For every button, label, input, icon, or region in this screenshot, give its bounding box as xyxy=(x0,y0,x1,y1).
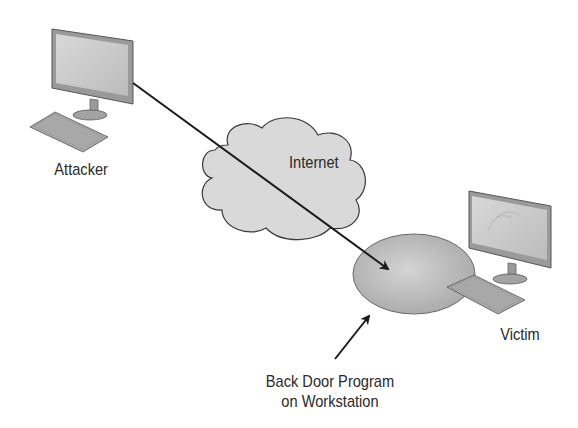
attacker-computer-icon xyxy=(30,29,133,152)
backdoor-label-line1: Back Door Program xyxy=(253,372,408,392)
diagram-canvas xyxy=(0,0,578,428)
attacker-label: Attacker xyxy=(54,160,108,180)
internet-label: Internet xyxy=(289,153,339,173)
backdoor-program-ellipse xyxy=(353,234,475,314)
backdoor-pointer-arrow xyxy=(335,316,369,359)
backdoor-label-line2: on Workstation xyxy=(253,392,408,412)
internet-cloud-icon xyxy=(202,118,365,240)
victim-label: Victim xyxy=(500,325,540,345)
